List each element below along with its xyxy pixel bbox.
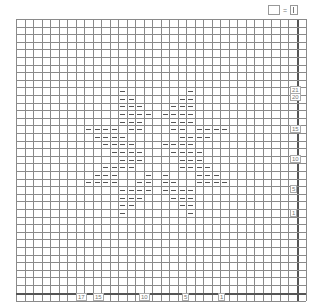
- empty-cell-icon: [268, 5, 280, 15]
- grid-hline: [16, 156, 306, 157]
- purl-stitch-icon: [214, 129, 219, 130]
- grid-hline: [16, 293, 306, 295]
- grid-vline: [220, 19, 221, 301]
- grid-vline-outer: [306, 19, 307, 301]
- purl-stitch-icon: [129, 106, 134, 107]
- purl-stitch-icon: [112, 175, 117, 176]
- grid-hline: [16, 110, 306, 111]
- grid-hline: [16, 247, 306, 248]
- purl-stitch-icon: [205, 137, 210, 138]
- purl-stitch-icon: [163, 190, 168, 191]
- legend-equals: =: [283, 7, 287, 14]
- grid-hline: [16, 201, 306, 202]
- purl-stitch-icon: [188, 152, 193, 153]
- row-label: 5: [290, 185, 297, 193]
- purl-stitch-icon: [129, 144, 134, 145]
- grid-hline: [16, 255, 306, 256]
- grid-hline: [16, 148, 306, 149]
- purl-stitch-icon: [137, 198, 142, 199]
- row-label: 10: [290, 155, 301, 163]
- purl-stitch-icon: [188, 114, 193, 115]
- purl-stitch-icon: [197, 137, 202, 138]
- grid-vline: [144, 19, 145, 301]
- purl-stitch-icon: [146, 190, 151, 191]
- purl-stitch-icon: [120, 198, 125, 199]
- purl-stitch-icon: [163, 114, 168, 115]
- grid-hline: [16, 239, 306, 240]
- grid-vline: [25, 19, 26, 301]
- purl-stitch-icon: [180, 198, 185, 199]
- purl-stitch-icon: [120, 152, 125, 153]
- purl-stitch-icon: [103, 167, 108, 168]
- purl-stitch-icon: [171, 152, 176, 153]
- purl-stitch-icon: [86, 129, 91, 130]
- purl-stitch-icon: [180, 137, 185, 138]
- purl-stitch-icon: [188, 144, 193, 145]
- grid-hline: [16, 163, 306, 164]
- purl-stitch-icon: [120, 137, 125, 138]
- purl-stitch-icon: [112, 129, 117, 130]
- purl-stitch-icon: [95, 129, 100, 130]
- purl-stitch-icon: [188, 99, 193, 100]
- grid-hline: [16, 277, 306, 278]
- purl-stitch-icon: [188, 91, 193, 92]
- purl-stitch-icon: [103, 182, 108, 183]
- purl-stitch-icon: [95, 137, 100, 138]
- purl-stitch-icon: [180, 114, 185, 115]
- grid-hline: [16, 171, 306, 172]
- grid-vline: [280, 19, 281, 301]
- purl-stitch-icon: [171, 198, 176, 199]
- purl-stitch-icon: [188, 106, 193, 107]
- purl-stitch-icon: [120, 122, 125, 123]
- chart-legend: =: [268, 5, 298, 15]
- grid-vline: [195, 19, 196, 301]
- purl-stitch-icon: [112, 167, 117, 168]
- purl-stitch-icon: [171, 144, 176, 145]
- grid-vline: [152, 19, 153, 301]
- purl-stitch-icon: [180, 167, 185, 168]
- purl-stitch-icon: [188, 213, 193, 214]
- purl-stitch-icon: [222, 129, 227, 130]
- purl-stitch-icon: [129, 129, 134, 130]
- purl-stitch-icon: [171, 122, 176, 123]
- grid-hline: [16, 262, 306, 263]
- purl-stitch-icon: [180, 160, 185, 161]
- purl-stitch-icon: [180, 122, 185, 123]
- purl-stitch-icon: [205, 167, 210, 168]
- grid-vline: [110, 19, 111, 301]
- purl-stitch-icon: [188, 190, 193, 191]
- purl-stitch-icon: [188, 122, 193, 123]
- purl-stitch-icon: [129, 160, 134, 161]
- knit-stitch-icon: [290, 5, 298, 15]
- grid-hline: [16, 209, 306, 210]
- purl-stitch-icon: [197, 175, 202, 176]
- purl-stitch-icon: [137, 182, 142, 183]
- grid-hline: [16, 19, 306, 20]
- row-label: 15: [290, 125, 301, 133]
- grid-hline: [16, 80, 306, 81]
- purl-stitch-icon: [171, 129, 176, 130]
- grid-vline: [118, 19, 119, 301]
- column-label: 5: [182, 293, 189, 301]
- column-label: 1: [218, 293, 225, 301]
- grid-vline: [135, 19, 136, 301]
- purl-stitch-icon: [103, 175, 108, 176]
- purl-stitch-icon: [180, 152, 185, 153]
- purl-stitch-icon: [180, 99, 185, 100]
- purl-stitch-icon: [146, 175, 151, 176]
- grid-hline-outer: [16, 301, 306, 302]
- purl-stitch-icon: [205, 175, 210, 176]
- purl-stitch-icon: [197, 167, 202, 168]
- purl-stitch-icon: [129, 205, 134, 206]
- grid-vline: [42, 19, 43, 301]
- column-label: 15: [93, 293, 104, 301]
- purl-stitch-icon: [137, 160, 142, 161]
- grid-vline: [178, 19, 179, 301]
- grid-hline: [16, 65, 306, 66]
- knitting-chart-grid: [16, 19, 306, 301]
- grid-hline: [16, 285, 306, 286]
- column-label: 10: [139, 293, 150, 301]
- purl-stitch-icon: [171, 106, 176, 107]
- grid-vline: [84, 19, 85, 301]
- purl-stitch-icon: [103, 129, 108, 130]
